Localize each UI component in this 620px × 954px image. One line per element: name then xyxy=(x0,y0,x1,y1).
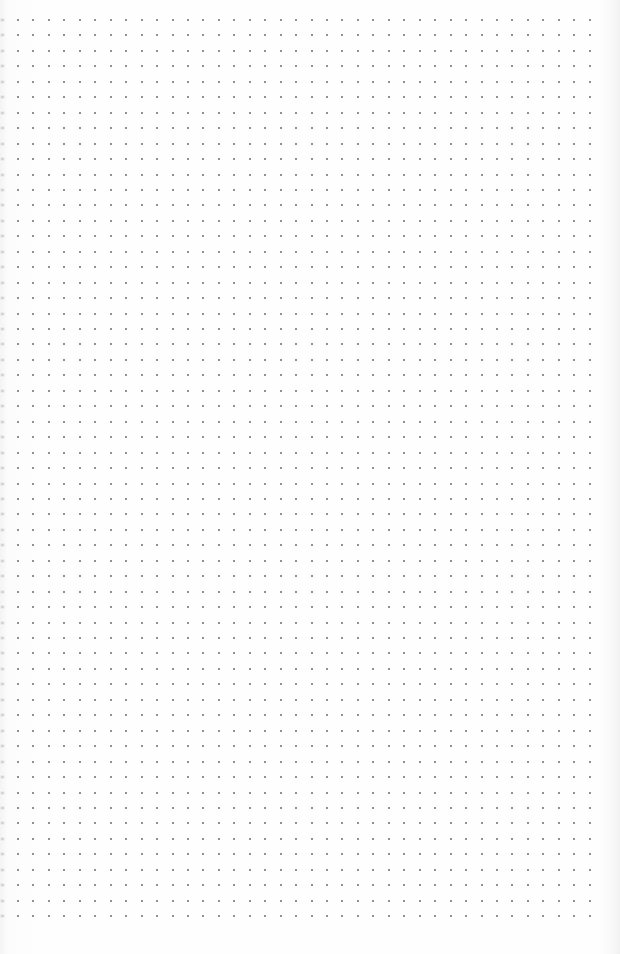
grid-dot xyxy=(94,668,96,670)
grid-dot xyxy=(388,498,390,500)
grid-dot xyxy=(589,467,591,469)
grid-dot xyxy=(264,405,266,407)
grid-dot xyxy=(496,282,498,284)
grid-dot xyxy=(341,776,343,778)
grid-dot xyxy=(573,838,575,840)
grid-dot xyxy=(511,622,513,624)
grid-dot xyxy=(311,652,313,654)
grid-dot xyxy=(558,900,560,902)
grid-dot xyxy=(141,807,143,809)
grid-dot xyxy=(326,637,328,639)
grid-dot xyxy=(419,776,421,778)
grid-dot xyxy=(434,96,436,98)
grid-dot xyxy=(542,622,544,624)
grid-dot xyxy=(419,529,421,531)
grid-dot xyxy=(589,792,591,794)
grid-dot xyxy=(233,900,235,902)
grid-dot xyxy=(465,652,467,654)
grid-dot xyxy=(357,498,359,500)
grid-dot xyxy=(32,853,34,855)
grid-dot xyxy=(48,529,50,531)
grid-dot xyxy=(511,575,513,577)
grid-dot xyxy=(511,204,513,206)
grid-dot xyxy=(110,668,112,670)
grid-dot xyxy=(589,34,591,36)
grid-dot xyxy=(450,112,452,114)
grid-dot xyxy=(264,421,266,423)
grid-dot xyxy=(79,560,81,562)
grid-dot xyxy=(280,313,282,315)
grid-dot xyxy=(79,34,81,36)
grid-dot xyxy=(450,65,452,67)
perforation-mark xyxy=(0,342,5,346)
grid-dot xyxy=(511,81,513,83)
grid-dot xyxy=(233,65,235,67)
grid-dot xyxy=(79,668,81,670)
grid-dot xyxy=(202,436,204,438)
grid-dot xyxy=(311,591,313,593)
grid-dot xyxy=(110,204,112,206)
grid-dot xyxy=(249,251,251,253)
grid-dot xyxy=(187,915,189,917)
grid-dot xyxy=(357,483,359,485)
grid-dot xyxy=(156,452,158,454)
grid-dot xyxy=(511,96,513,98)
grid-dot xyxy=(341,266,343,268)
grid-dot xyxy=(295,575,297,577)
grid-dot xyxy=(187,158,189,160)
perforation-mark xyxy=(0,482,5,486)
grid-dot xyxy=(481,19,483,21)
grid-dot xyxy=(542,328,544,330)
grid-dot xyxy=(326,421,328,423)
grid-dot xyxy=(450,853,452,855)
grid-dot xyxy=(450,421,452,423)
grid-dot xyxy=(419,591,421,593)
grid-dot xyxy=(311,869,313,871)
grid-dot xyxy=(280,174,282,176)
grid-dot xyxy=(17,900,19,902)
grid-dot xyxy=(79,591,81,593)
grid-dot xyxy=(280,127,282,129)
grid-dot xyxy=(326,652,328,654)
grid-dot xyxy=(94,452,96,454)
grid-dot xyxy=(125,714,127,716)
grid-dot xyxy=(388,807,390,809)
grid-dot xyxy=(558,884,560,886)
grid-dot xyxy=(542,65,544,67)
grid-dot xyxy=(589,112,591,114)
grid-dot xyxy=(17,174,19,176)
grid-dot xyxy=(496,807,498,809)
grid-dot xyxy=(357,19,359,21)
grid-dot xyxy=(511,668,513,670)
grid-dot xyxy=(17,652,19,654)
grid-dot xyxy=(218,869,220,871)
grid-dot xyxy=(218,853,220,855)
grid-dot xyxy=(156,19,158,21)
grid-dot xyxy=(357,297,359,299)
grid-dot xyxy=(249,127,251,129)
grid-dot xyxy=(94,421,96,423)
grid-dot xyxy=(141,560,143,562)
grid-dot xyxy=(63,822,65,824)
grid-dot xyxy=(403,19,405,21)
grid-dot xyxy=(589,127,591,129)
grid-dot xyxy=(156,513,158,515)
grid-dot xyxy=(511,483,513,485)
grid-dot xyxy=(527,251,529,253)
grid-dot xyxy=(187,266,189,268)
grid-dot xyxy=(172,560,174,562)
grid-dot xyxy=(372,204,374,206)
grid-dot xyxy=(249,637,251,639)
grid-dot xyxy=(141,204,143,206)
grid-dot xyxy=(280,498,282,500)
grid-dot xyxy=(187,374,189,376)
grid-dot xyxy=(326,359,328,361)
grid-dot xyxy=(264,143,266,145)
grid-dot xyxy=(280,158,282,160)
perforation-mark xyxy=(0,234,5,238)
grid-dot xyxy=(496,699,498,701)
grid-dot xyxy=(48,96,50,98)
grid-dot xyxy=(558,869,560,871)
grid-dot xyxy=(94,96,96,98)
grid-dot xyxy=(450,529,452,531)
